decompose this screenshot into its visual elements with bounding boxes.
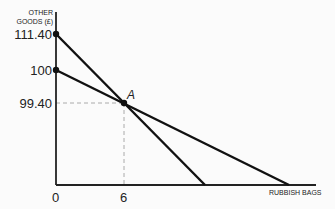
point-a-label: A (127, 88, 135, 102)
steep-budget-line (56, 34, 205, 185)
y-axis-label-line2: GOODS (£) (16, 17, 53, 26)
point-111 (53, 31, 59, 37)
y-axis-label-line1: OTHER (16, 8, 53, 17)
point-100 (53, 67, 59, 73)
y-axis-label: OTHER GOODS (£) (16, 8, 53, 26)
flat-budget-line (56, 70, 289, 185)
budget-line-diagram: OTHER GOODS (£) 111.40 100 99.40 0 6 RUB… (0, 0, 335, 209)
x-tick-6: 6 (120, 190, 127, 205)
x-tick-0: 0 (52, 190, 59, 205)
y-tick-111: 111.40 (14, 27, 52, 42)
x-axis-label: RUBBISH BAGS (269, 189, 322, 196)
y-tick-99: 99.40 (19, 96, 52, 111)
y-tick-100: 100 (30, 63, 52, 78)
